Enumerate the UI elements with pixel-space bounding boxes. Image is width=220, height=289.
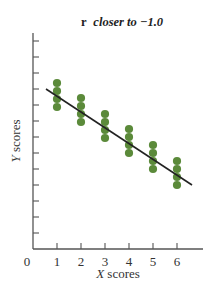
chart-title: r closer to −1.0 [81,15,164,29]
data-point [77,94,85,102]
data-point [149,165,157,173]
data-point [125,149,133,157]
data-point [149,141,157,149]
data-point [101,118,109,126]
data-points [53,79,181,189]
axes [33,33,203,249]
data-point [77,118,85,126]
scatter-chart: r closer to −1.0 123456 0 X scores Y sco… [0,0,220,289]
x-tick-label: 5 [150,254,157,269]
y-axis-ticks [33,41,39,233]
x-axis-label: X scores [95,266,140,281]
data-point [77,102,85,110]
x-tick-label: 6 [174,254,181,269]
x-tick-label: 2 [78,254,85,269]
title-suffix: closer to −1.0 [93,15,163,29]
data-point [53,79,61,87]
data-point [125,125,133,133]
data-point [53,103,61,111]
y-axis-label: Y scores [8,120,23,163]
data-point [173,181,181,189]
data-point [173,165,181,173]
x-tick-label: 1 [54,254,61,269]
title-prefix: r [81,15,87,29]
origin-label: 0 [24,254,31,269]
data-point [101,110,109,118]
data-point [149,149,157,157]
data-point [101,134,109,142]
regression-line [46,89,192,185]
data-point [173,157,181,165]
data-point [125,133,133,141]
x-axis-ticks [57,243,177,249]
